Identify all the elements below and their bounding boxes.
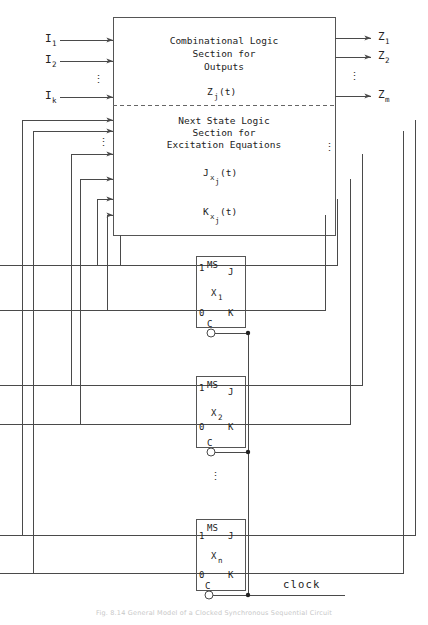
input-label-1: I 1 [45,32,57,48]
flipflop-x1-one: 1 [199,263,204,273]
flipflop-x1-zero: 0 [199,308,204,318]
input-label-2-base: I [45,53,52,66]
j-eq-tail: (t) [220,167,237,178]
flipflop-x1-c: C [207,319,212,329]
j-eq-sub2: j [215,177,220,186]
nextstate-line1: Next State Logic [178,115,270,126]
output-ellipsis: ⋮ [349,70,360,83]
output-label-1: Z 1 [378,30,390,46]
output-label-m-sub: m [385,95,390,104]
feedback-left-riser-5 [97,199,113,265]
flipflop-x2-one: 1 [199,383,204,393]
flipflop-x2: MS 1 J X 2 0 K C [196,376,362,456]
flipflop-x2-type: MS [207,380,218,390]
k-eq-tail: (t) [220,206,237,217]
output-label-m-base: Z [378,88,385,101]
output-equation-tail: (t) [219,86,236,97]
excitation-wires [0,235,196,573]
clock-junction-x1 [246,331,250,335]
output-label-m: Z m [378,88,390,104]
flipflop-x2-zero: 0 [199,422,204,432]
primary-inputs: I 1 I 2 I k ⋮ [45,32,113,105]
next-state-logic-labels: Next State Logic Section for Excitation … [167,115,281,225]
output-equation: Z j (t) [207,86,236,101]
input-label-k-base: I [45,89,52,102]
output-label-1-sub: 1 [385,37,390,46]
nextstate-line3: Excitation Equations [167,139,281,150]
flipflop-ellipsis: ⋮ [210,470,221,483]
output-label-1-base: Z [378,30,385,43]
clock-junction-xn [246,593,250,597]
k-eq-sub2: j [215,216,220,225]
flipflop-xn-clock-bubble [205,591,213,599]
combinational-line2: Section for [193,48,256,59]
combinational-logic-labels: Combinational Logic Section for Outputs … [170,35,279,101]
k-eq-base: K [203,206,209,217]
j-eq-base: J [203,167,209,178]
circuit-diagram: Combinational Logic Section for Outputs … [0,0,428,625]
feedback-paths: ⋮ ⋮ [22,120,415,573]
clock-label: clock [283,578,321,590]
flipflop-x2-c: C [207,438,212,448]
figure-caption: Fig. 8.14 General Model of a Clocked Syn… [0,609,428,617]
flipflop-x1: MS 1 J X 1 0 K C [196,256,337,337]
flipflop-x2-state: X 2 [211,408,223,422]
flipflop-xn-state-sub: n [218,556,223,565]
input-label-2-sub: 2 [52,60,57,69]
combinational-line1: Combinational Logic [170,35,279,46]
feedback-ellipsis-left: ⋮ [98,136,109,149]
flipflop-x2-clock-bubble [207,448,215,456]
input-label-k-sub: k [52,96,57,105]
flipflop-xn-zero: 0 [199,570,204,580]
output-label-2-base: Z [378,49,385,62]
nextstate-line2: Section for [193,127,256,138]
flipflop-x1-state-sub: 1 [218,293,223,302]
input-label-1-base: I [45,32,52,45]
flipflop-x1-state: X 1 [211,288,223,302]
primary-outputs: Z 1 Z 2 Z m ⋮ [335,30,390,104]
input-label-2: I 2 [45,53,57,69]
flipflop-xn-one: 1 [199,531,204,541]
flipflop-x1-j: J [228,267,233,277]
feedback-left-riser-2 [33,131,113,573]
output-label-2: Z 2 [378,49,390,65]
j-excitation-equation: J x j (t) [203,167,237,186]
output-equation-sub: j [214,92,219,101]
output-equation-base: Z [207,86,213,97]
flipflop-x2-j: J [228,387,233,397]
input-label-k: I k [45,89,57,105]
combinational-line3: Outputs [204,61,244,72]
feedback-right-outer-a [260,120,415,535]
clock-bus: clock [246,333,345,597]
feedback-right-outer-b [260,131,403,573]
flipflop-x1-k: K [228,308,234,318]
flipflop-xn-c: C [205,581,210,591]
flipflop-x1-type: MS [207,260,218,270]
feedback-right-inner-f [260,215,325,310]
flipflop-xn-type: MS [207,523,218,533]
output-label-2-sub: 2 [385,56,390,65]
feedback-ellipsis-right: ⋮ [324,141,335,154]
flipflop-xn-j: J [228,531,233,541]
figure-canvas: Combinational Logic Section for Outputs … [0,0,428,625]
flipflop-x2-state-base: X [211,408,217,418]
flipflop-x1-clock-bubble [207,329,215,337]
flipflop-x1-state-base: X [211,288,217,298]
input-label-1-sub: 1 [52,39,57,48]
flipflop-x2-k: K [228,422,234,432]
flipflop-xn-k: K [228,570,234,580]
flipflop-x2-state-sub: 2 [218,413,223,422]
feedback-left-riser-1 [22,120,113,535]
excitation-j-ff1 [120,235,196,265]
clock-junction-x2 [246,450,250,454]
feedback-right-mid-c [260,154,362,385]
flipflop-xn-state: X n [211,551,223,565]
k-excitation-equation: K x j (t) [203,206,237,225]
flipflop-xn-state-base: X [211,551,217,561]
feedback-left-riser-6 [107,215,113,310]
input-ellipsis: ⋮ [93,73,104,86]
